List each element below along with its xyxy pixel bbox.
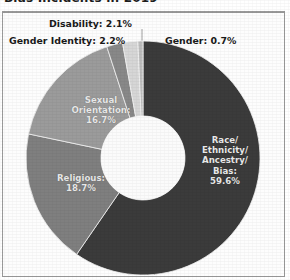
- slice-label-line: Race/: [181, 135, 269, 145]
- slice-label-line: 59.6%: [181, 176, 269, 186]
- slice-label-line: Ethnicity/: [181, 145, 269, 155]
- slice-label-line: Orientation:: [61, 105, 141, 115]
- slice-label-line: 16.7%: [61, 115, 141, 125]
- slice-label-line: Bias:: [181, 166, 269, 176]
- slice-label-line: Ancestry/: [181, 155, 269, 165]
- chart-title-strip: Bias Incidents in 2019: [0, 0, 290, 9]
- slice-label-gender-identity: Gender Identity: 2.2%: [9, 35, 125, 46]
- slice-label-race-ethnicity-ancestry-bias: Race/ Ethnicity/ Ancestry/ Bias: 59.6%: [181, 135, 269, 186]
- page-title: Bias Incidents in 2019: [4, 0, 158, 5]
- chart-frame: Disability: 2.1% Gender Identity: 2.2% G…: [2, 11, 285, 277]
- slice-label-sexual-orientation: Sexual Orientation: 16.7%: [61, 95, 141, 126]
- slice-label-line: Religious:: [41, 173, 121, 183]
- slice-label-line: 18.7%: [41, 183, 121, 193]
- slice-label-religious: Religious: 18.7%: [41, 173, 121, 193]
- slice-label-line: Sexual: [61, 95, 141, 105]
- slice-label-disability: Disability: 2.1%: [49, 18, 132, 29]
- slice-label-gender: Gender: 0.7%: [165, 35, 236, 46]
